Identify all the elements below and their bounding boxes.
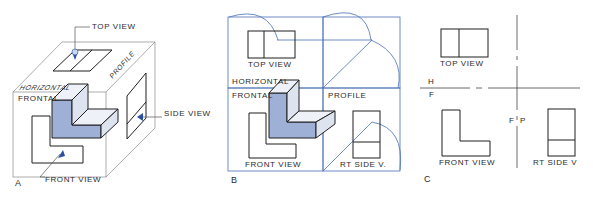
panel-c-front-view <box>442 110 490 156</box>
panel-a-l-object <box>52 84 118 138</box>
panel-a-letter: A <box>15 179 21 188</box>
panel-b-front-view-label: FRONT VIEW <box>245 161 301 169</box>
panel-b-l-object <box>269 80 335 138</box>
panel-c-side-view <box>548 109 575 156</box>
panel-c-f-label: F <box>429 91 435 99</box>
panel-c-front-view-label: FRONT VIEW <box>439 159 495 167</box>
panel-b-horizontal-label: HORIZONTAL <box>232 78 289 86</box>
panel-b-profile-label: PROFILE <box>328 92 366 100</box>
panel-c-top-view <box>441 29 488 57</box>
panel-a-side-view-projection <box>127 73 146 139</box>
panel-a-front-view-label: FRONT VIEW <box>45 176 101 184</box>
panel-c-fp-f-label: F <box>509 117 515 125</box>
side-view-arrow-icon <box>137 113 143 121</box>
panel-b-side-view <box>353 111 380 158</box>
panel-b-rt-side-view-label: RT SIDE V. <box>340 161 386 169</box>
panel-c-h-label: H <box>428 78 434 86</box>
panel-a-horizontal-label: HORIZONTAL <box>19 84 72 91</box>
panel-a-top-view-projection <box>53 50 112 71</box>
panel-b-letter: B <box>231 176 237 185</box>
panel-b-frontal-label: FRONTAL <box>232 92 273 100</box>
panel-a-side-view-label: SIDE VIEW <box>164 110 211 118</box>
front-view-arrow-icon <box>58 150 65 158</box>
panel-c-fp-p-label: P <box>520 117 526 125</box>
panel-b-top-view <box>248 31 295 58</box>
panel-a-frontal-label: FRONTAL <box>18 95 59 103</box>
panel-c-rt-side-view-label: RT SIDE V <box>533 159 577 167</box>
panel-a-top-view-label: TOP VIEW <box>92 23 136 31</box>
panel-c-letter: C <box>424 175 431 184</box>
panel-c-fold-lines <box>420 15 580 168</box>
panel-c-top-view-label: TOP VIEW <box>440 60 484 68</box>
panel-b-top-view-label: TOP VIEW <box>248 61 292 69</box>
